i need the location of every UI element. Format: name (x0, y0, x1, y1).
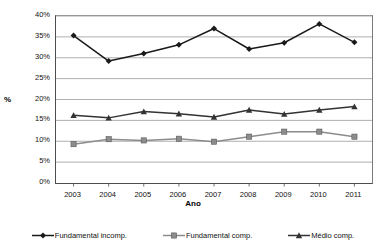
legend-marker-square-icon (163, 231, 185, 240)
y-axis-tick-label: 30% (14, 53, 50, 61)
data-point-marker (171, 232, 176, 237)
y-axis-tick-labels: 0%5%10%15%20%25%30%35%40% (14, 0, 50, 249)
data-point-marker (141, 138, 146, 143)
x-axis-tick-label: 2008 (240, 190, 257, 199)
x-axis-tick-label: 2010 (310, 190, 327, 199)
x-axis-tick-label: 2006 (170, 190, 187, 199)
y-axis-tick-label: 20% (14, 95, 50, 103)
legend-label: Fundamental comp. (186, 231, 252, 240)
data-point-marker (247, 134, 252, 139)
data-point-marker (246, 46, 252, 52)
y-axis-tick-label: 10% (14, 136, 50, 144)
series-3 (70, 103, 357, 120)
y-axis-title: % (4, 95, 11, 104)
y-axis-tick-label: 40% (14, 11, 50, 19)
plot-area (55, 15, 373, 184)
data-point-marker (317, 129, 322, 134)
legend-item-2[interactable]: Fundamental comp. (163, 231, 252, 240)
series-layer (56, 16, 372, 183)
chart-legend: Fundamental incomp.Fundamental comp.Médi… (0, 225, 386, 245)
y-axis-tick-label: 35% (14, 32, 50, 40)
x-axis-tick-label: 2009 (275, 190, 292, 199)
data-point-marker (176, 42, 182, 48)
x-axis-tick-label: 2004 (99, 190, 116, 199)
x-axis-tick-label: 2007 (205, 190, 222, 199)
x-axis-tick-labels: 200320042005200620072008200920102011 (55, 186, 373, 200)
data-point-marker (106, 137, 111, 142)
legend-label: Médio comp. (311, 231, 354, 240)
series-2 (71, 129, 357, 147)
x-axis-tick-label: 2011 (345, 190, 361, 199)
legend-label: Fundamental incomp. (55, 231, 127, 240)
data-point-marker (71, 142, 76, 147)
data-point-marker (352, 134, 357, 139)
data-point-marker (40, 232, 46, 238)
series-1 (71, 21, 358, 64)
legend-marker-diamond-icon (32, 231, 54, 240)
legend-marker-triangle-icon (288, 231, 310, 240)
data-point-marker (141, 51, 147, 57)
legend-item-1[interactable]: Fundamental incomp. (32, 231, 127, 240)
y-axis-tick-label: 25% (14, 74, 50, 82)
y-axis-tick-label: 5% (14, 157, 50, 165)
legend-item-3[interactable]: Médio comp. (288, 231, 354, 240)
data-point-marker (176, 136, 181, 141)
data-point-marker (282, 129, 287, 134)
x-axis-tick-label: 2003 (64, 190, 81, 199)
data-point-marker (316, 21, 322, 27)
data-point-marker (211, 139, 216, 144)
x-axis-title: Ano (0, 199, 386, 208)
x-axis-tick-label: 2005 (134, 190, 151, 199)
data-point-marker (211, 26, 217, 32)
data-point-marker (351, 39, 357, 45)
line-chart-figure: % 0%5%10%15%20%25%30%35%40% 200320042005… (0, 0, 386, 249)
y-axis-tick-label: 15% (14, 115, 50, 123)
data-point-marker (281, 40, 287, 46)
y-axis-tick-label: 0% (14, 178, 50, 186)
